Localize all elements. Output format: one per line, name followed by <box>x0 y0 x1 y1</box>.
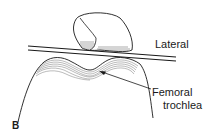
femoral-condyles <box>18 57 153 122</box>
knee-diagram: Lateral Femoral trochlea B <box>0 0 211 134</box>
label-trochlea: trochlea <box>163 99 202 111</box>
panel-label: B <box>12 120 19 131</box>
pointer-arrow <box>99 71 151 89</box>
patella-shape <box>73 13 132 52</box>
diagram-drawing <box>0 0 211 134</box>
label-femoral: Femoral <box>152 86 192 98</box>
label-lateral: Lateral <box>155 38 189 50</box>
